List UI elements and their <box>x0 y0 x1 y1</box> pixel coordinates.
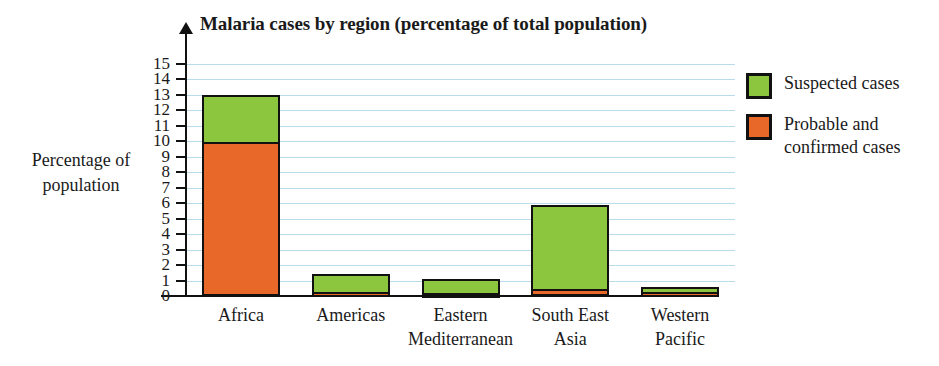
y-axis-tick-labels: 0123456789101112131415 <box>144 0 170 366</box>
y-axis-tick-label: 7 <box>144 179 170 196</box>
y-axis-tick-label: 12 <box>144 101 170 118</box>
y-axis-tick-label: 13 <box>144 86 170 103</box>
y-axis-tick <box>176 125 186 127</box>
malaria-cases-chart: Malaria cases by region (percentage of t… <box>0 0 939 366</box>
x-axis-line <box>161 295 698 297</box>
legend-item-probable-confirmed: Probable and confirmed cases <box>746 113 936 159</box>
y-axis-tick-label: 1 <box>144 272 170 289</box>
y-axis-tick <box>176 140 186 142</box>
y-axis-tick <box>176 78 186 80</box>
chart-legend: Suspected cases Probable and confirmed c… <box>746 72 936 173</box>
y-axis-tick <box>176 109 186 111</box>
legend-label-suspected: Suspected cases <box>784 72 899 95</box>
bar-stack <box>641 57 719 296</box>
bar-stack <box>531 57 609 296</box>
category-label-line2: Pacific <box>610 327 750 351</box>
y-axis-tick-label: 3 <box>144 241 170 258</box>
legend-label-line1: Probable and <box>784 113 900 136</box>
x-axis-category-label: WesternPacific <box>610 303 750 351</box>
y-axis-tick <box>176 171 186 173</box>
legend-label-line2: confirmed cases <box>784 136 900 159</box>
bar-segment-probable-confirmed <box>202 144 280 296</box>
y-axis-tick-label: 6 <box>144 194 170 211</box>
bar-segment-suspected <box>422 279 500 295</box>
y-axis-arrow-icon <box>179 22 193 34</box>
legend-swatch-probable-confirmed <box>746 114 772 140</box>
chart-title: Malaria cases by region (percentage of t… <box>200 13 647 35</box>
legend-item-suspected: Suspected cases <box>746 72 936 99</box>
bar-segment-suspected <box>202 95 280 144</box>
y-axis-title: Percentage of population <box>6 148 156 198</box>
y-axis-title-line2: population <box>6 173 156 198</box>
bar-segment-suspected <box>641 287 719 295</box>
legend-swatch-suspected <box>746 73 772 99</box>
bar-stack <box>202 57 280 296</box>
bar-stack <box>312 57 390 296</box>
y-axis-tick-label: 10 <box>144 132 170 149</box>
bar-stack <box>422 57 500 296</box>
y-axis-tick <box>176 202 186 204</box>
bar-segment-suspected <box>312 274 390 294</box>
y-axis-tick <box>176 295 186 297</box>
y-axis-tick-label: 2 <box>144 256 170 273</box>
y-axis-tick <box>176 218 186 220</box>
category-label-line1: Western <box>610 303 750 327</box>
y-axis-tick-label: 4 <box>144 225 170 242</box>
y-axis-tick <box>176 249 186 251</box>
y-axis-tick <box>176 63 186 65</box>
y-axis-tick-label: 11 <box>144 117 170 134</box>
y-axis-tick <box>176 156 186 158</box>
y-axis-tick-label: 8 <box>144 163 170 180</box>
y-axis-tick-label: 9 <box>144 148 170 165</box>
y-axis-tick <box>176 280 186 282</box>
y-axis-tick-label: 14 <box>144 70 170 87</box>
plot-area <box>186 57 735 296</box>
y-axis-tick <box>176 233 186 235</box>
legend-label-probable-confirmed: Probable and confirmed cases <box>784 113 900 159</box>
y-axis-tick-label: 15 <box>144 55 170 72</box>
y-axis-tick <box>176 264 186 266</box>
y-axis-tick <box>176 94 186 96</box>
y-axis-tick-label: 0 <box>144 287 170 304</box>
bar-segment-suspected <box>531 205 609 291</box>
y-axis-tick-label: 5 <box>144 210 170 227</box>
y-axis-line <box>185 30 187 297</box>
y-axis-title-line1: Percentage of <box>6 148 156 173</box>
y-axis-tick <box>176 187 186 189</box>
